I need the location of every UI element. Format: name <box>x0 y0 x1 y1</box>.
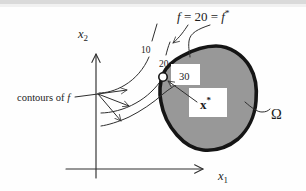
x1-axis-label: x1 <box>217 169 228 185</box>
annotation-star: * <box>225 8 230 18</box>
contours-label-leader <box>75 94 98 97</box>
contour-10-upper-tail <box>152 24 157 41</box>
x2-subscript: 2 <box>84 33 89 43</box>
annotation-f-star: f = 20 = f* <box>177 8 230 24</box>
scan-edge-artifact <box>0 0 306 4</box>
contour-20-upper-tail <box>166 42 170 55</box>
contour-20-label: 20 <box>159 59 169 69</box>
contour-10-label: 10 <box>141 45 151 55</box>
annotation-leader-arrow <box>173 25 188 43</box>
contours-label-text: contours of <box>17 92 67 103</box>
scan-edge-artifact-fade <box>0 4 306 7</box>
contour-30-label: 30 <box>179 71 190 82</box>
optimum-star: * <box>207 95 212 105</box>
optimal-point-marker <box>159 73 167 81</box>
contours-of-f-label: contours of f <box>17 92 72 103</box>
optimization-diagram: f = 20 = f* x2 x1 contours of f 10 20 30… <box>0 0 306 191</box>
x2-axis-label: x2 <box>77 27 88 43</box>
x1-subscript: 1 <box>224 175 229 185</box>
figure-canvas: f = 20 = f* x2 x1 contours of f 10 20 30… <box>0 0 306 191</box>
contour-10-curve <box>99 57 149 93</box>
contours-label-f: f <box>67 92 72 103</box>
omega-label: Ω <box>271 106 282 122</box>
annotation-equals: = 20 = <box>181 9 222 24</box>
